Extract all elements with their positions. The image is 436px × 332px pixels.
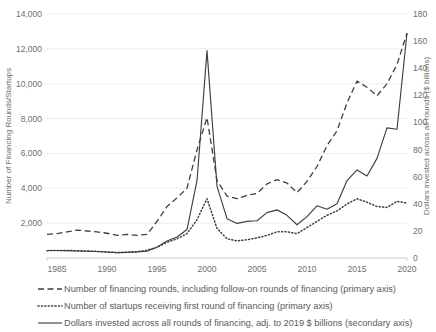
- x-axis-tick-label: 2005: [248, 264, 267, 274]
- x-axis-tick-label: 1995: [148, 264, 167, 274]
- x-axis-tick-label: 1990: [98, 264, 117, 274]
- x-axis-tick-label: 2000: [198, 264, 217, 274]
- legend-item-label: Dollars invested across all rounds of fi…: [64, 318, 412, 328]
- right-axis-title: Dollars invested across all rounds ($ bi…: [422, 57, 431, 216]
- right-axis-tick-label: 180: [413, 9, 427, 19]
- chart-container: 2,0004,0006,0008,00010,00012,00014,000 0…: [0, 0, 436, 332]
- left-axis-tick-label: 12,000: [16, 44, 42, 54]
- x-axis-tick-label: 1985: [48, 264, 67, 274]
- left-axis-tick-label: 8,000: [21, 114, 43, 124]
- right-axis-tick-label: 20: [413, 226, 423, 236]
- left-axis-tick-label: 14,000: [16, 9, 42, 19]
- right-axis-tick-label: 0: [413, 253, 418, 263]
- left-axis-tick-label: 10,000: [16, 79, 42, 89]
- left-axis-tick-label: 4,000: [21, 183, 43, 193]
- x-axis-tick-label: 2010: [298, 264, 317, 274]
- left-axis-tick-label: 6,000: [21, 148, 43, 158]
- legend-item-label: Number of startups receiving first round…: [64, 301, 333, 311]
- left-axis-title: Number of Financing Rounds/Startups: [4, 68, 13, 204]
- left-axis-tick-label: 2,000: [21, 218, 43, 228]
- x-axis-tick-label: 2020: [398, 264, 417, 274]
- financing-rounds-line-chart: 2,0004,0006,0008,00010,00012,00014,000 0…: [0, 0, 436, 332]
- legend-item-label: Number of financing rounds, including fo…: [64, 284, 396, 294]
- x-axis-tick-label: 2015: [348, 264, 367, 274]
- chart-background: [0, 0, 436, 332]
- right-axis-tick-label: 160: [413, 36, 427, 46]
